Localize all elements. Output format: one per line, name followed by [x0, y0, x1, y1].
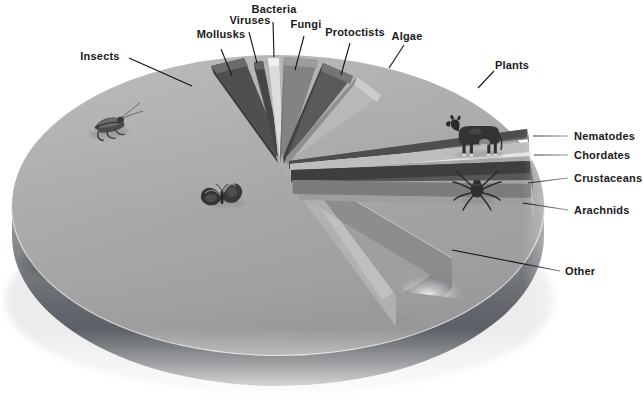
label-mollusks: Mollusks [178, 28, 264, 40]
label-viruses: Viruses [212, 14, 288, 26]
label-other: Other [565, 265, 595, 277]
label-arachnids: Arachnids [574, 204, 630, 216]
leader-algae [389, 45, 404, 68]
label-protoctists: Protoctists [317, 26, 393, 38]
label-bacteria: Bacteria [238, 3, 310, 15]
label-nematodes: Nematodes [574, 130, 635, 142]
label-insects: Insects [60, 50, 140, 62]
leader-bacteria [273, 22, 274, 57]
label-plants: Plants [486, 59, 538, 71]
chart-figure: Insects Mollusks Viruses Bacteria Fungi … [0, 0, 643, 399]
label-crustaceans: Crustaceans [574, 172, 642, 184]
leader-plants [478, 71, 494, 88]
label-algae: Algae [383, 30, 431, 42]
label-chordates: Chordates [574, 149, 630, 161]
